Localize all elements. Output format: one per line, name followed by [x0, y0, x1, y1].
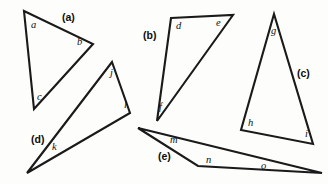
figure-canvas: a b c (a) d e f (b) g h i (c) j l k (d)	[0, 0, 328, 184]
group-label-a: (a)	[62, 11, 75, 23]
triangle-b: d e f (b)	[143, 15, 233, 121]
angle-label-g: g	[271, 25, 276, 36]
geometry-figure: a b c (a) d e f (b) g h i (c) j l k (d)	[0, 0, 328, 184]
triangle-a: a b c (a)	[24, 11, 93, 109]
angle-label-m: m	[170, 134, 178, 145]
triangle-b-outline	[157, 15, 233, 121]
triangle-d: j l k (d)	[27, 62, 130, 173]
angle-label-e: e	[216, 17, 221, 28]
group-label-b: (b)	[143, 29, 156, 41]
angle-label-n: n	[206, 154, 211, 165]
group-label-e: (e)	[158, 150, 171, 162]
angle-label-h: h	[248, 117, 253, 128]
triangle-d-outline	[27, 62, 130, 173]
triangle-e: m n o (e)	[138, 128, 322, 173]
triangle-c: g h i (c)	[241, 14, 313, 144]
angle-label-f: f	[159, 101, 164, 112]
angle-label-o: o	[261, 160, 266, 171]
angle-label-l: l	[124, 99, 127, 110]
angle-label-j: j	[108, 67, 113, 78]
angle-label-k: k	[52, 141, 57, 152]
angle-label-d: d	[176, 20, 182, 31]
angle-label-a: a	[31, 19, 36, 30]
angle-label-i: i	[305, 128, 308, 139]
angle-label-b: b	[77, 36, 82, 47]
group-label-d: (d)	[31, 133, 44, 145]
group-label-c: (c)	[297, 67, 310, 79]
angle-label-c: c	[37, 91, 42, 102]
